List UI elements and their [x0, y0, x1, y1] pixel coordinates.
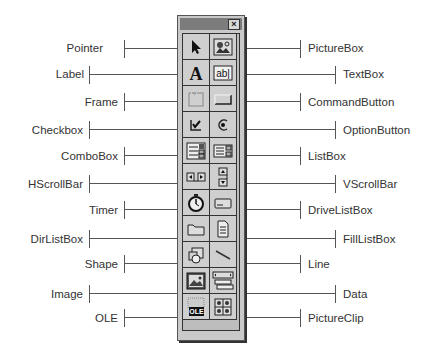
callout-line: [89, 74, 184, 75]
picturebox-icon: [213, 38, 233, 56]
callout-line: [124, 155, 184, 156]
callout-line: [124, 48, 184, 49]
option-button-icon: [216, 118, 230, 132]
label-vscrollbar: VScrollBar: [343, 177, 397, 191]
pictureclip-icon: [214, 298, 232, 316]
pointer-arrow-icon: [189, 39, 203, 55]
callout-tick: [335, 121, 336, 139]
callout-line: [89, 238, 184, 239]
callout-tick: [335, 285, 336, 303]
callout-line: [236, 238, 336, 239]
callout-tick: [124, 201, 125, 219]
tool-combobox[interactable]: [183, 138, 210, 164]
label-shape: Shape: [85, 257, 118, 271]
label-listbox: ListBox: [308, 149, 346, 163]
tool-filllistbox[interactable]: [210, 216, 237, 242]
tool-listbox[interactable]: [210, 138, 237, 164]
listbox-icon: [213, 143, 233, 159]
tool-pictureclip[interactable]: [210, 294, 237, 320]
frame-icon: xy: [187, 90, 205, 108]
tool-ole[interactable]: OLE: [183, 294, 210, 320]
tool-dirlistbox[interactable]: [183, 216, 210, 242]
callout-tick: [89, 175, 90, 193]
ole-icon: OLE: [186, 297, 206, 317]
tool-frame[interactable]: xy: [183, 86, 210, 112]
label-image: Image: [51, 287, 83, 301]
tool-data[interactable]: [210, 268, 237, 294]
tool-grid: A ab| xy: [182, 33, 240, 331]
label-picturebox: PictureBox: [308, 41, 364, 55]
label-a-icon: A: [187, 64, 205, 82]
label-optionbutton: OptionButton: [343, 123, 410, 137]
callout-tick: [300, 93, 301, 111]
command-button-icon: [213, 91, 233, 107]
label-commandbutton: CommandButton: [308, 95, 394, 109]
callout-line: [236, 317, 301, 318]
tool-textbox[interactable]: ab|: [210, 60, 237, 86]
timer-stopwatch-icon: [187, 193, 205, 213]
tool-pointer[interactable]: [183, 34, 210, 60]
file-icon: [216, 220, 230, 238]
label-combobox: ComboBox: [61, 149, 118, 163]
tool-hscrollbar[interactable]: [183, 164, 210, 190]
callout-tick: [89, 230, 90, 248]
callout-tick: [89, 285, 90, 303]
callout-line: [236, 209, 301, 210]
label-pictureclip: PictureClip: [308, 311, 364, 325]
callout-tick: [124, 147, 125, 165]
label-drivelistbox: DriveListBox: [308, 203, 373, 217]
callout-tick: [89, 121, 90, 139]
callout-line: [124, 209, 184, 210]
vb-toolbox: × A ab| xy: [177, 15, 245, 341]
callout-line: [236, 74, 336, 75]
callout-tick: [124, 255, 125, 273]
svg-text:ab|: ab|: [216, 68, 230, 79]
tool-shape[interactable]: [183, 242, 210, 268]
callout-tick: [124, 93, 125, 111]
tool-checkbox[interactable]: [183, 112, 210, 138]
tool-drivelistbox[interactable]: [210, 190, 237, 216]
callout-tick: [335, 66, 336, 84]
toolbox-titlebar[interactable]: ×: [180, 18, 242, 30]
callout-tick: [335, 175, 336, 193]
callout-line: [89, 293, 184, 294]
callout-line: [236, 263, 301, 264]
callout-tick: [300, 255, 301, 273]
data-control-icon: [212, 271, 234, 291]
folder-icon: [186, 221, 206, 237]
label-checkbox: Checkbox: [32, 123, 83, 137]
svg-text:OLE: OLE: [189, 308, 204, 315]
tool-label[interactable]: A: [183, 60, 210, 86]
callout-line: [89, 183, 184, 184]
tool-image[interactable]: [183, 268, 210, 294]
shape-icon: [187, 246, 205, 264]
svg-text:A: A: [190, 64, 203, 82]
callout-line: [236, 48, 301, 49]
tool-timer[interactable]: [183, 190, 210, 216]
callout-line: [236, 293, 336, 294]
image-icon: [186, 272, 206, 290]
callout-line: [89, 129, 184, 130]
callout-tick: [300, 309, 301, 327]
label-label: Label: [56, 67, 84, 81]
vscrollbar-icon: [217, 167, 229, 187]
tool-picturebox[interactable]: [210, 34, 237, 60]
callout-tick: [89, 66, 90, 84]
callout-tick: [300, 201, 301, 219]
callout-tick: [300, 40, 301, 58]
tool-commandbutton[interactable]: [210, 86, 237, 112]
tool-line[interactable]: [210, 242, 237, 268]
svg-text:xy: xy: [192, 90, 196, 95]
callout-line: [236, 101, 301, 102]
label-timer: Timer: [89, 203, 118, 217]
label-dirlistbox: DirListBox: [31, 232, 83, 246]
tool-optionbutton[interactable]: [210, 112, 237, 138]
close-button[interactable]: ×: [228, 19, 240, 30]
label-filllistbox: FillListBox: [343, 232, 395, 246]
label-ole: OLE: [95, 311, 118, 325]
drive-icon: [213, 196, 233, 210]
callout-line: [236, 183, 336, 184]
textbox-ab-icon: ab|: [213, 65, 233, 81]
tool-vscrollbar[interactable]: [210, 164, 237, 190]
line-icon: [213, 248, 233, 262]
